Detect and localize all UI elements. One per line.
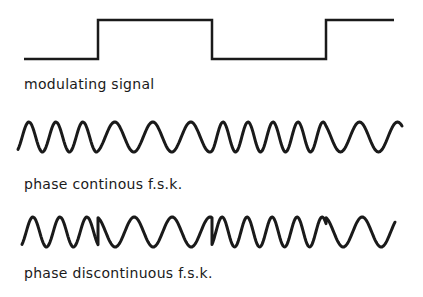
modulating-square-wave — [24, 20, 394, 59]
fsk-diagram — [0, 0, 423, 297]
phase-discontinuous-label: phase discontinuous f.s.k. — [24, 265, 213, 281]
phase-continuous-fsk-waveform — [18, 122, 402, 152]
phase-discontinuous-fsk-waveform — [22, 217, 395, 247]
modulating-signal-label: modulating signal — [24, 76, 155, 92]
phase-continuous-label: phase continous f.s.k. — [24, 176, 183, 192]
